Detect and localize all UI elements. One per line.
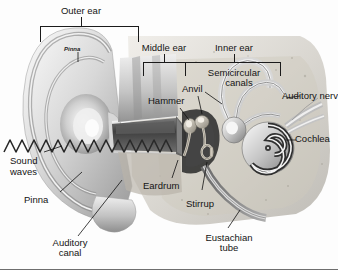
middle-ear-bracket-stem: [164, 54, 165, 62]
label-outer-ear: Outer ear: [51, 6, 111, 17]
outer-ear-bracket-stem: [81, 17, 82, 26]
ear-illustration: [0, 0, 338, 270]
inner-ear-bracket-right: [280, 62, 281, 76]
ear-anatomy-figure: Outer ear Middle ear Inner ear Pinna Sem…: [0, 0, 338, 270]
label-pinna-inner: Pinna: [64, 44, 80, 55]
label-auditory-canal-line2: canal: [42, 248, 98, 259]
outer-ear-bracket-right: [138, 26, 139, 42]
middle-inner-bracket-top: [143, 62, 281, 63]
label-eardrum: Eardrum: [143, 181, 179, 192]
inner-ear-bracket-stem: [234, 54, 235, 62]
label-cochlea: Cochlea: [295, 134, 330, 145]
label-hammer: Hammer: [148, 96, 184, 107]
label-semicircular-canals-line2: canals: [206, 78, 272, 89]
outer-ear-bracket-left: [40, 26, 41, 42]
middle-inner-bracket-divider: [185, 62, 186, 76]
middle-ear-bracket-left: [143, 62, 144, 76]
label-pinna: Pinna: [24, 195, 48, 206]
outer-ear-bracket-top: [40, 26, 139, 27]
label-anvil: Anvil: [182, 84, 203, 95]
label-sound-waves-line1: Sound: [10, 156, 37, 167]
label-middle-ear: Middle ear: [134, 43, 194, 54]
label-auditory-nerve: Auditory nerv: [282, 91, 338, 102]
label-inner-ear: Inner ear: [205, 43, 263, 54]
label-eustachian-tube-line2: tube: [193, 243, 265, 254]
label-sound-waves-line2: waves: [10, 167, 37, 178]
label-stirrup: Stirrup: [186, 199, 214, 210]
